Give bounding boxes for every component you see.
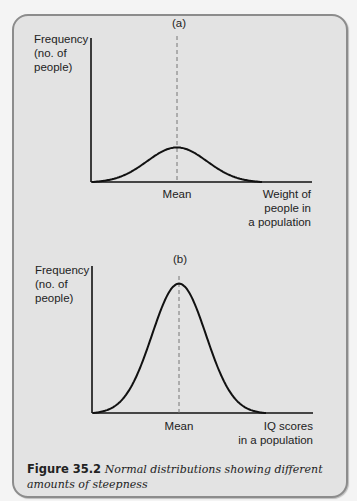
figure-svg: (a) Frequency (no. of people) Mean Weigh… [0,0,357,501]
chart-b-title: (b) [173,253,187,265]
chart-b-xtick-mean: Mean [165,420,194,432]
chart-a: (a) Frequency (no. of people) Mean Weigh… [34,17,312,228]
chart-b-ylabel-line-2: (no. of [35,278,68,290]
figure-caption-label: Figure 35.2 [27,462,101,476]
chart-b: (b) Frequency (no. of people) Mean IQ sc… [35,253,313,446]
chart-b-xlabel-line-1: IQ scores [264,420,313,432]
chart-a-xlabel-line-3: a population [248,216,311,228]
chart-a-xlabel-line-1: Weight of [263,188,312,200]
chart-a-xlabel-line-2: people in [264,202,311,214]
chart-b-ylabel-line-1: Frequency [35,264,90,276]
chart-a-xtick-mean: Mean [163,188,192,200]
chart-a-ylabel-line-2: (no. of [34,47,67,59]
chart-b-ylabel-line-3: people) [35,292,74,304]
chart-a-ylabel-line-3: people) [34,61,73,73]
chart-a-title: (a) [172,17,186,29]
chart-a-ylabel-line-1: Frequency [34,33,89,45]
chart-b-xlabel-line-2: in a population [238,434,313,446]
figure-caption: Figure 35.2 Normal distributions showing… [27,462,332,492]
